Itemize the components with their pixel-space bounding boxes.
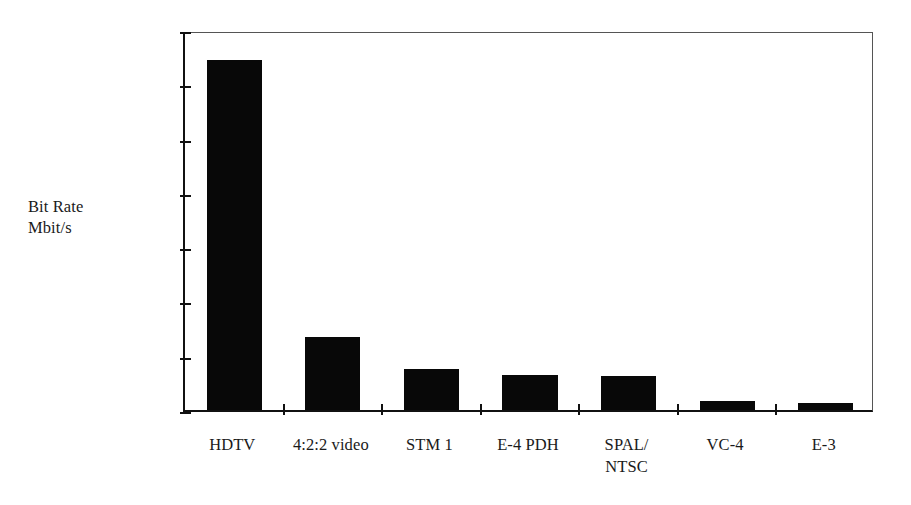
bar — [502, 375, 557, 410]
x-axis-tick-label: E-3 — [812, 434, 836, 456]
x-axis-tick-label: 4:2:2 video — [293, 434, 369, 456]
bar-chart-figure: Bit Rate Mbit/s 020040060080010001200140… — [0, 0, 911, 505]
bar — [700, 401, 755, 410]
x-axis-tick-label: HDTV — [209, 434, 255, 456]
y-axis-tick-labels: 0200400600800100012001400 — [0, 0, 183, 505]
bar — [207, 60, 262, 410]
bar — [601, 376, 656, 410]
bars-group — [185, 33, 872, 410]
x-axis-tick-label: E-4 PDH — [497, 434, 559, 456]
bar — [305, 337, 360, 410]
x-axis-tick-label: STM 1 — [406, 434, 453, 456]
x-axis-tick-label: SPAL/ NTSC — [605, 434, 649, 478]
plot-area — [183, 32, 873, 412]
bar — [404, 369, 459, 410]
bar — [798, 403, 853, 410]
y-axis-tick-mark — [180, 412, 191, 414]
x-axis-tick-label: VC-4 — [707, 434, 744, 456]
x-axis-tick-labels: HDTV4:2:2 videoSTM 1E-4 PDHSPAL/ NTSCVC-… — [183, 420, 873, 490]
